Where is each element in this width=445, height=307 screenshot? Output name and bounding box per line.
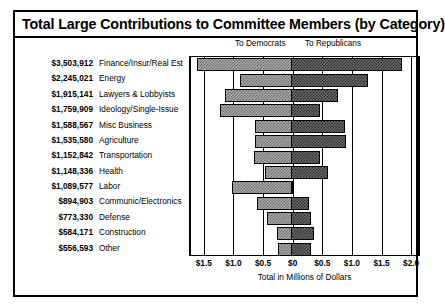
category-amount: $3,503,912 [31, 56, 93, 71]
bar-row[interactable] [189, 197, 420, 210]
bar-segment-democrats[interactable] [265, 166, 293, 179]
category-row: $584,171Construction [31, 225, 191, 240]
bar-segment-democrats[interactable] [225, 89, 293, 102]
bar-segment-democrats[interactable] [232, 181, 293, 194]
category-row: $894,903Communic/Electronics [31, 194, 191, 209]
chart-title: Total Large Contributions to Committee M… [22, 16, 445, 32]
bar-segment-republicans[interactable] [291, 58, 401, 71]
bar-row[interactable] [189, 151, 420, 164]
x-tick-label: $0.5 [314, 258, 330, 268]
category-row: $1,588,567Misc Business [31, 118, 191, 133]
bar-row[interactable] [189, 166, 420, 179]
category-name: Agriculture [99, 133, 139, 148]
category-row: $1,089,577Labor [31, 179, 191, 194]
category-name: Transportation [99, 148, 152, 163]
x-tick-label: $1.5 [196, 258, 212, 268]
bar-segment-republicans[interactable] [291, 74, 368, 87]
category-name: Communic/Electronics [99, 194, 182, 209]
bar-segment-republicans[interactable] [291, 181, 293, 194]
x-tick-label: $2.0 [403, 258, 419, 268]
category-name: Lawyers & Lobbyists [99, 87, 175, 102]
bar-row[interactable] [189, 74, 420, 87]
category-row: $773,330Defense [31, 210, 191, 225]
legend-label-democrats: To Democrats [235, 39, 286, 48]
x-tick-label: $1.5 [373, 258, 389, 268]
category-amount: $773,330 [31, 210, 93, 225]
bar-row[interactable] [189, 243, 420, 256]
plot-area [189, 56, 420, 256]
bar-segment-republicans[interactable] [291, 243, 311, 256]
x-tick-label: $1.0 [344, 258, 360, 268]
category-name: Energy [99, 71, 125, 86]
bar-segment-democrats[interactable] [220, 104, 292, 117]
bar-segment-democrats[interactable] [197, 58, 293, 71]
bar-row[interactable] [189, 104, 420, 117]
bar-row[interactable] [189, 58, 420, 71]
category-amount: $1,588,567 [31, 118, 93, 133]
bar-segment-democrats[interactable] [240, 74, 293, 87]
title-divider [15, 36, 416, 38]
bar-segment-republicans[interactable] [291, 166, 328, 179]
category-name: Ideology/Single-Issue [99, 102, 178, 117]
bar-segment-democrats[interactable] [257, 197, 293, 210]
bar-segment-republicans[interactable] [291, 135, 346, 148]
bar-row[interactable] [189, 212, 420, 225]
bar-segment-republicans[interactable] [291, 151, 320, 164]
bar-segment-democrats[interactable] [254, 151, 293, 164]
category-name: Finance/Insur/Real Est [99, 56, 183, 71]
x-tick-label: $1.0 [225, 258, 241, 268]
category-name: Construction [99, 225, 146, 240]
bar-segment-republicans[interactable] [291, 120, 345, 133]
category-row: $1,915,141Lawyers & Lobbyists [31, 87, 191, 102]
bar-segment-democrats[interactable] [255, 135, 292, 148]
category-name: Health [99, 164, 123, 179]
x-axis-tick-labels: $1.5$1.0$0.5$0$0.5$1.0$1.5$2.0 [189, 258, 420, 272]
category-name: Defense [99, 210, 130, 225]
category-row: $1,148,336Health [31, 164, 191, 179]
bar-segment-republicans[interactable] [291, 104, 320, 117]
bar-segment-democrats[interactable] [277, 227, 293, 240]
category-amount: $584,171 [31, 225, 93, 240]
category-row: $2,245,021Energy [31, 71, 191, 86]
category-amount: $1,089,577 [31, 179, 93, 194]
bar-segment-democrats[interactable] [255, 120, 292, 133]
bar-row[interactable] [189, 181, 420, 194]
bar-segment-republicans[interactable] [291, 227, 314, 240]
category-label-column: $3,503,912Finance/Insur/Real Est$2,245,0… [31, 56, 191, 256]
category-row: $1,759,909Ideology/Single-Issue [31, 102, 191, 117]
category-row: $3,503,912Finance/Insur/Real Est [31, 56, 191, 71]
category-amount: $2,245,021 [31, 71, 93, 86]
bar-row[interactable] [189, 135, 420, 148]
bar-row[interactable] [189, 120, 420, 133]
category-amount: $1,148,336 [31, 164, 93, 179]
bar-segment-democrats[interactable] [267, 212, 293, 225]
category-amount: $894,903 [31, 194, 93, 209]
bar-segment-republicans[interactable] [291, 89, 337, 102]
bar-segment-republicans[interactable] [291, 212, 311, 225]
category-row: $556,593Other [31, 241, 191, 256]
category-row: $1,152,842Transportation [31, 148, 191, 163]
bar-row[interactable] [189, 89, 420, 102]
chart-panel: Total Large Contributions to Committee M… [13, 10, 418, 297]
category-amount: $1,759,909 [31, 102, 93, 117]
category-amount: $1,535,580 [31, 133, 93, 148]
bar-segment-republicans[interactable] [291, 197, 308, 210]
category-amount: $1,152,842 [31, 148, 93, 163]
bar-row[interactable] [189, 227, 420, 240]
x-tick-label: $0.5 [255, 258, 271, 268]
x-tick-label: $0 [288, 258, 297, 268]
category-row: $1,535,580Agriculture [31, 133, 191, 148]
category-name: Other [99, 241, 120, 256]
category-amount: $556,593 [31, 241, 93, 256]
x-axis-title: Total in Millions of Dollars [189, 272, 420, 282]
legend-label-republicans: To Republicans [305, 39, 361, 48]
category-amount: $1,915,141 [31, 87, 93, 102]
category-name: Labor [99, 179, 120, 194]
category-name: Misc Business [99, 118, 152, 133]
